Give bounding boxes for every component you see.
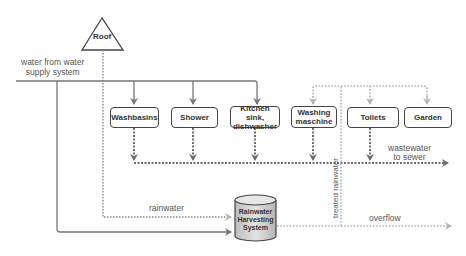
tank-label: Rainwater Harvesting System — [235, 208, 276, 232]
supply-label-line2: supply system — [21, 67, 84, 77]
fixture-label-2: dishwasher — [231, 122, 279, 131]
fixture-washbasins: Washbasins — [110, 107, 159, 128]
treated-rainwater-label: treated rainwater — [331, 158, 340, 218]
fixture-label: Shower — [180, 113, 209, 122]
fixture-label-2: maschine — [296, 117, 333, 126]
supply-label: water from water supply system — [21, 57, 84, 77]
fixture-label: Washbasins — [111, 113, 157, 122]
tank-label-line3: System — [235, 224, 276, 232]
supply-label-line1: water from water — [21, 57, 84, 67]
fixture-shower: Shower — [171, 107, 218, 128]
tank-label-line2: Harvesting — [235, 216, 276, 224]
wastewater-label-line2: to sewer — [388, 153, 431, 162]
fixture-kitchen: Kitchen sink,dishwasher — [230, 106, 280, 128]
roof-label: Roof — [93, 32, 111, 41]
tank-label-line1: Rainwater — [235, 208, 276, 216]
fixture-label: Washing — [296, 108, 333, 117]
rainwater-line — [103, 50, 231, 217]
fixture-toilets: Toilets — [347, 107, 399, 128]
fixture-washing-machine: Washingmaschine — [291, 106, 337, 128]
fixture-label: Toilets — [360, 113, 385, 122]
fixture-garden: Garden — [404, 107, 452, 128]
supply-lines — [16, 81, 257, 232]
fixture-label: Garden — [414, 113, 442, 122]
wastewater-label: wastewater to sewer — [388, 144, 431, 162]
overflow-label: overflow — [369, 213, 401, 223]
fixture-label: Kitchen sink, — [231, 104, 279, 122]
rainwater-label: rainwater — [149, 203, 184, 213]
